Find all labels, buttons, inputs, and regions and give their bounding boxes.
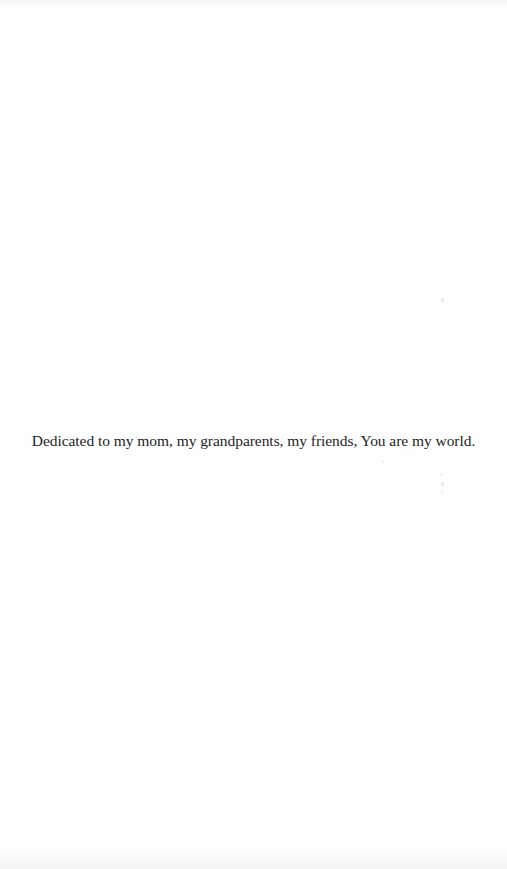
scan-edge-bottom (0, 847, 507, 869)
dedication-text: Dedicated to my mom, my grandparents, my… (0, 432, 507, 450)
scan-speck (440, 473, 442, 476)
scan-speck (441, 491, 443, 494)
scan-speck (382, 460, 384, 463)
scan-edge-top (0, 0, 507, 8)
book-page: Dedicated to my mom, my grandparents, my… (0, 0, 507, 869)
scan-speck (441, 482, 444, 487)
scan-speck (441, 298, 444, 303)
